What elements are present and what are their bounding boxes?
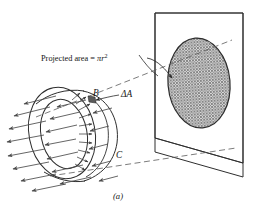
projected-area-text: Projected area = (41, 54, 97, 63)
projected-area-label: Projected area = πr2 (41, 53, 107, 63)
physics-diagram: Projected area = πr2 B C ΔA (a) (0, 0, 254, 214)
delta-a-label: ΔA (120, 89, 132, 99)
figure-caption: (a) (113, 191, 123, 201)
point-c-label: C (116, 150, 123, 160)
exponent-2: 2 (104, 53, 107, 59)
figure-container: Projected area = πr2 B C ΔA (a) (0, 0, 254, 214)
point-b-label: B (93, 88, 99, 98)
